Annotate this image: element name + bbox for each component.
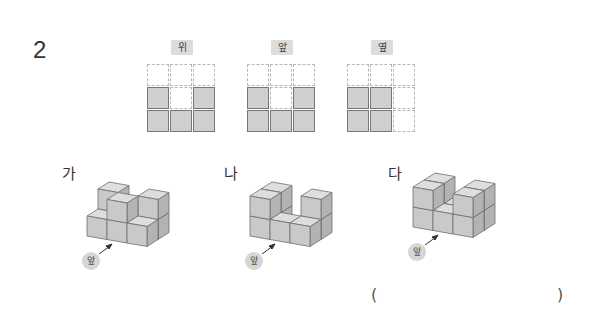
front-direction-badge: 앞: [408, 243, 426, 261]
answer-open-paren: (: [371, 285, 377, 304]
figure-ga: [87, 182, 169, 247]
front-direction-badge: 앞: [245, 252, 263, 270]
answer-close-paren: ): [557, 285, 563, 304]
figure-da: [413, 173, 495, 238]
front-direction-badge: 앞: [82, 252, 100, 270]
cube-figures: [0, 0, 598, 327]
answer-blank[interactable]: [385, 284, 555, 306]
figure-na: [250, 182, 332, 247]
